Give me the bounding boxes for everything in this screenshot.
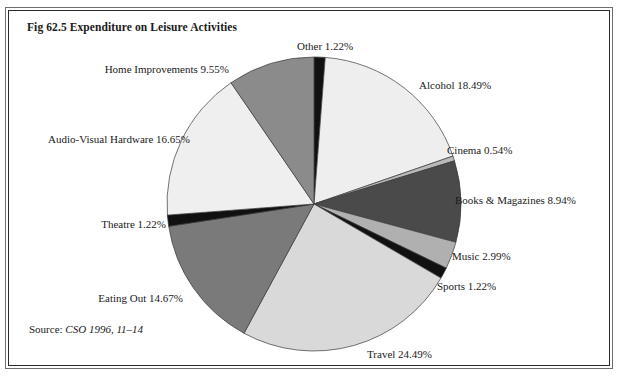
slice-label-home-improvements: Home Improvements 9.55% — [105, 63, 229, 75]
slice-label-travel: Travel 24.49% — [367, 348, 432, 360]
slice-label-cinema: Cinema 0.54% — [447, 144, 512, 156]
source-note: Source: CSO 1996, 11–14 — [29, 323, 143, 335]
slice-label-theatre: Theatre 1.22% — [101, 218, 166, 230]
pie-chart: Other 1.22% Alcohol 18.49% Cinema 0.54% … — [9, 11, 611, 367]
slice-label-other: Other 1.22% — [297, 40, 353, 52]
slice-label-sports: Sports 1.22% — [437, 280, 496, 292]
source-prefix: Source: — [29, 323, 63, 335]
slice-label-alcohol: Alcohol 18.49% — [419, 79, 491, 91]
pie-slices — [167, 57, 461, 351]
slice-label-books-magazines: Books & Magazines 8.94% — [455, 194, 576, 206]
slice-label-audio-visual-hardware: Audio-Visual Hardware 16.65% — [48, 133, 190, 145]
figure-frame: Fig 62.5 Expenditure on Leisure Activiti… — [8, 10, 610, 366]
pie-svg — [164, 54, 464, 354]
slice-label-eating-out: Eating Out 14.67% — [98, 292, 183, 304]
source-citation: CSO 1996, 11–14 — [65, 323, 143, 335]
slice-label-music: Music 2.99% — [452, 250, 511, 262]
